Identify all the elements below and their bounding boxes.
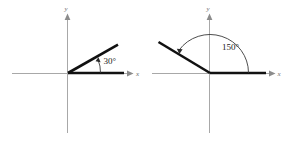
right-terminal-side xyxy=(159,42,211,73)
right-x-axis-label: x xyxy=(277,70,282,78)
left-coordinate-system: x y 30° xyxy=(12,5,140,133)
left-y-axis-label: y xyxy=(64,5,69,13)
right-y-axis-arrow-icon xyxy=(207,14,213,21)
right-coordinate-system: x y 150° xyxy=(152,5,282,133)
left-x-axis-arrow-icon xyxy=(127,71,134,77)
right-angle-arc xyxy=(179,35,249,73)
left-y-axis-arrow-icon xyxy=(65,14,71,21)
right-angle-label: 150° xyxy=(222,42,240,52)
right-y-axis-label: y xyxy=(206,5,211,13)
diagram-canvas: x y 30° x y 150° xyxy=(0,0,283,141)
angle-diagrams-figure: x y 30° x y 150° xyxy=(0,0,283,141)
left-x-axis-label: x xyxy=(135,70,140,78)
left-angle-label: 30° xyxy=(104,56,117,66)
right-x-axis-arrow-icon xyxy=(269,71,276,77)
